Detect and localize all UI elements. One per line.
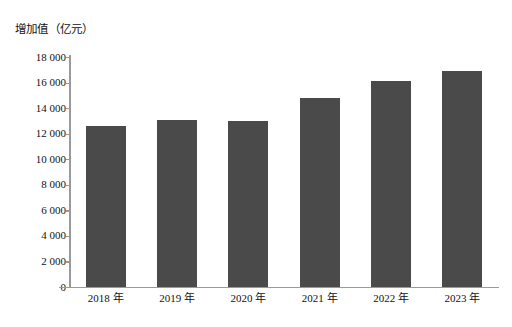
bar bbox=[300, 98, 340, 287]
y-axis-tick-label: 16 000 bbox=[4, 77, 66, 88]
y-axis-tick-label: 2 000 bbox=[4, 256, 66, 267]
bar bbox=[442, 71, 482, 287]
y-axis-tick-label: 0 bbox=[4, 282, 66, 293]
bar bbox=[86, 126, 126, 287]
y-axis-tick-label: 4 000 bbox=[4, 230, 66, 241]
x-axis-tick-label: 2018 年 bbox=[70, 291, 142, 305]
x-axis-tick-label: 2022 年 bbox=[355, 291, 427, 305]
x-axis-tick-label: 2023 年 bbox=[426, 291, 498, 305]
y-axis-tick-label: 8 000 bbox=[4, 179, 66, 190]
x-axis-line bbox=[59, 287, 499, 288]
y-axis-tick-label: 18 000 bbox=[4, 52, 66, 63]
y-axis-tick-label: 6 000 bbox=[4, 205, 66, 216]
bar bbox=[157, 120, 197, 287]
y-axis-tick-labels: 18 00016 00014 00012 00010 0008 0006 000… bbox=[0, 0, 66, 327]
x-axis-tick-label: 2021 年 bbox=[284, 291, 356, 305]
x-axis-tick-label: 2020 年 bbox=[212, 291, 284, 305]
bar bbox=[228, 121, 268, 287]
bar bbox=[371, 81, 411, 287]
y-axis-tick-label: 14 000 bbox=[4, 103, 66, 114]
x-axis-tick-labels: 2018 年2019 年2020 年2021 年2022 年2023 年 bbox=[70, 291, 498, 313]
x-axis-tick-label: 2019 年 bbox=[141, 291, 213, 305]
y-axis-tick-label: 10 000 bbox=[4, 154, 66, 165]
plot-area bbox=[70, 57, 498, 287]
bar-chart-figure: 增加值（亿元） 18 00016 00014 00012 00010 0008 … bbox=[0, 0, 512, 327]
y-axis-tick-label: 12 000 bbox=[4, 128, 66, 139]
